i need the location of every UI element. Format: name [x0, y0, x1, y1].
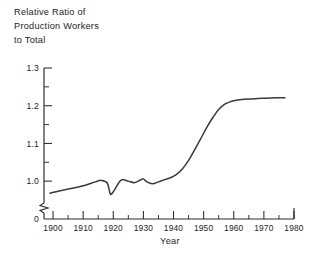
x-tick-label: 1980	[284, 223, 304, 233]
y-tick-label: 1.0	[26, 176, 39, 186]
x-tick-label: 1900	[43, 223, 63, 233]
y-tick-label: 1.1	[26, 139, 39, 149]
chart-axes	[40, 68, 294, 219]
chart-title-line-1: Relative Ratio of	[14, 7, 86, 17]
x-tick-label: 1940	[164, 223, 184, 233]
x-tick-label: 1970	[254, 223, 274, 233]
chart-title-line-2: Production Workers	[14, 21, 99, 31]
chart-title-line-3: to Total	[14, 35, 45, 45]
x-tick-label: 1910	[73, 223, 93, 233]
y-tick-label-zero: 0	[34, 214, 39, 224]
x-axis-title: Year	[160, 236, 180, 246]
data-series-line	[50, 98, 285, 195]
chart-title: Relative Ratio of Production Workers to …	[14, 7, 99, 45]
line-chart: Relative Ratio of Production Workers to …	[0, 0, 312, 257]
chart-container: Relative Ratio of Production Workers to …	[0, 0, 312, 257]
x-tick-label: 1920	[104, 223, 124, 233]
chart-data-series	[50, 98, 285, 195]
y-tick-label: 1.2	[26, 101, 39, 111]
y-tick-label: 1.3	[26, 63, 39, 73]
chart-tick-labels: 1.31.21.11.00190019101920193019401950196…	[26, 63, 303, 233]
x-tick-label: 1950	[194, 223, 214, 233]
x-tick-label: 1960	[224, 223, 244, 233]
x-tick-label: 1930	[134, 223, 154, 233]
